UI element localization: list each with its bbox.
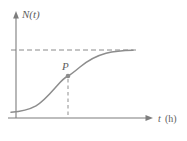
x-axis-arrow-icon <box>146 115 154 121</box>
y-axis-arrow-icon <box>13 11 19 19</box>
inflection-point-label: P <box>61 60 69 72</box>
figure-container: N(t) t (h) P <box>0 0 187 141</box>
y-axis-label: N(t) <box>21 8 40 21</box>
logistic-curve-chart: N(t) t (h) P <box>0 0 187 141</box>
inflection-point-marker <box>66 74 71 79</box>
x-axis-label-variable: t <box>158 113 161 124</box>
logistic-curve-path <box>11 50 133 112</box>
x-axis-label-unit: (h) <box>165 113 177 125</box>
